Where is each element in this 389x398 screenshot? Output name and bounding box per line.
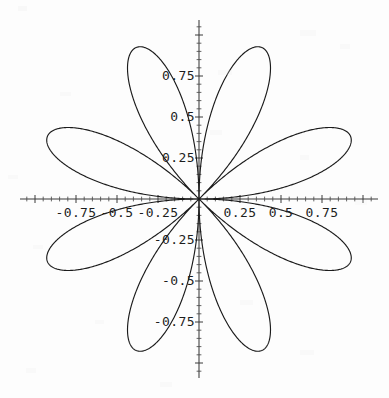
y-tick-label: 0.75 [162, 69, 195, 82]
y-tick-label: -0.5 [162, 274, 195, 287]
x-tick-label: 0.25 [224, 206, 257, 219]
x-tick-label: -0.5 [101, 206, 134, 219]
y-tick-label: -0.25 [154, 233, 195, 246]
x-tick-label: 0.75 [306, 206, 339, 219]
polar-rose-chart [0, 0, 389, 398]
y-tick-label: 0.25 [162, 151, 195, 164]
x-tick-label: -0.75 [55, 206, 96, 219]
y-tick-label: 0.5 [170, 110, 195, 123]
plot-page: -0.75-0.5-0.250.250.50.750.750.50.25-0.2… [0, 0, 389, 398]
x-tick-label: 0.5 [269, 206, 294, 219]
x-tick-label: -0.25 [137, 206, 178, 219]
y-tick-label: -0.75 [154, 315, 195, 328]
